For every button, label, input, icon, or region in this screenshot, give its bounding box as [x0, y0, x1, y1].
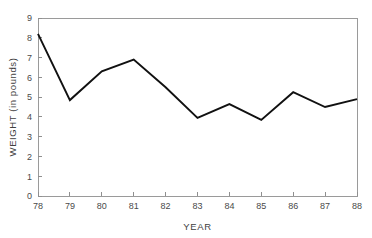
y-tick-label: 2 [27, 152, 32, 162]
y-tick-label: 1 [27, 172, 32, 182]
x-tick-label: 81 [129, 201, 139, 211]
x-tick-label: 86 [288, 201, 298, 211]
x-tick-label: 83 [192, 201, 202, 211]
y-tick-label: 8 [27, 33, 32, 43]
x-tick-label: 82 [161, 201, 171, 211]
x-tick-label: 84 [224, 201, 234, 211]
y-tick-label: 4 [27, 112, 32, 122]
data-series-line [38, 34, 357, 120]
x-tick-label: 78 [33, 201, 43, 211]
y-tick-label: 3 [27, 132, 32, 142]
x-axis-title: YEAR [183, 221, 211, 232]
y-tick-label: 7 [27, 53, 32, 63]
plot-frame [38, 18, 357, 196]
y-tick-label: 5 [27, 92, 32, 102]
x-tick-label: 88 [352, 201, 362, 211]
y-tick-label: 9 [27, 13, 32, 23]
y-tick-label: 6 [27, 73, 32, 83]
line-chart: 01234567897879808182838485868788YEARWEIG… [0, 0, 372, 238]
x-tick-label: 79 [65, 201, 75, 211]
y-tick-label: 0 [27, 191, 32, 201]
x-tick-label: 85 [256, 201, 266, 211]
x-tick-label: 80 [97, 201, 107, 211]
chart-canvas: 01234567897879808182838485868788YEARWEIG… [0, 0, 372, 238]
y-axis-title: WEIGHT (in pounds) [7, 58, 18, 157]
x-tick-label: 87 [320, 201, 330, 211]
